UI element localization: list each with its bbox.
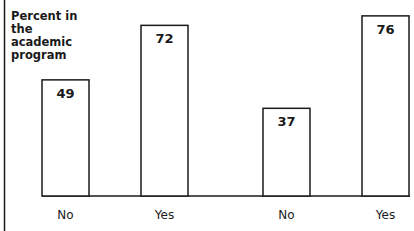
x-tick-label-1: Yes [154, 208, 174, 222]
data-label-2: 37 [277, 114, 295, 129]
x-tick-label-2: No [278, 208, 294, 222]
x-tick-label-3: Yes [375, 208, 395, 222]
x-tick-label-0: No [57, 208, 73, 222]
bar-3 [362, 16, 409, 196]
data-label-3: 76 [376, 22, 394, 37]
data-label-1: 72 [155, 31, 173, 46]
bar-1 [141, 25, 188, 196]
data-label-0: 49 [56, 86, 74, 101]
bar-chart: 49No72Yes37No76Yes [0, 0, 414, 231]
